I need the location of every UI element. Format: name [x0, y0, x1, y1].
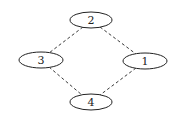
node-2: 2 [70, 12, 112, 28]
graph-diagram: 1234 [0, 0, 176, 121]
node-3: 3 [19, 52, 63, 68]
edge-2-3 [49, 27, 83, 53]
node-label: 3 [38, 54, 45, 67]
edge-2-1 [100, 27, 136, 54]
edge-3-4 [49, 67, 82, 95]
node-label: 2 [88, 14, 95, 27]
node-4: 4 [70, 94, 112, 110]
nodes-group: 1234 [19, 12, 167, 110]
node-label: 1 [142, 55, 149, 68]
node-label: 4 [88, 96, 95, 109]
node-1: 1 [123, 53, 167, 69]
edge-1-4 [100, 68, 136, 95]
